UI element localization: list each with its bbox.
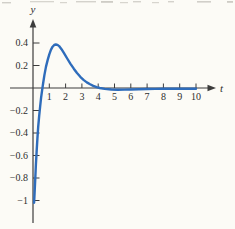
y-axis-title: y (30, 3, 36, 15)
x-tick-label: 2 (63, 91, 68, 102)
y-tick-label: 0.2 (16, 60, 29, 71)
x-tick-label: 3 (79, 91, 84, 102)
x-tick-label: 7 (145, 91, 150, 102)
x-tick-label: 1 (47, 91, 52, 102)
cropped-text-artifact (2, 1, 233, 3)
x-tick-label: 4 (96, 91, 101, 102)
graph-figure: 123456789100.40.2−0.2−0.4−0.6−0.8−1ty (0, 0, 235, 229)
curve-layer (34, 45, 196, 203)
x-tick-label: 8 (161, 91, 166, 102)
axes-layer: 123456789100.40.2−0.2−0.4−0.6−0.8−1ty (10, 3, 224, 223)
x-tick-label: 10 (191, 91, 201, 102)
curve-chart: 123456789100.40.2−0.2−0.4−0.6−0.8−1ty (0, 0, 235, 229)
y-tick-label: −0.4 (10, 127, 28, 138)
y-tick-label: −0.6 (10, 150, 28, 161)
x-axis-title: t (220, 82, 224, 94)
y-tick-label: −0.2 (10, 105, 28, 116)
x-tick-label: 5 (112, 91, 117, 102)
y-tick-label: 0.4 (16, 37, 29, 48)
solution-curve (34, 45, 196, 203)
x-axis-arrow-icon (208, 85, 217, 92)
y-axis-arrow-icon (30, 19, 37, 28)
y-tick-label: −0.8 (10, 172, 28, 183)
x-tick-label: 9 (177, 91, 182, 102)
x-tick-label: 6 (128, 91, 133, 102)
y-tick-label: −1 (17, 195, 28, 206)
